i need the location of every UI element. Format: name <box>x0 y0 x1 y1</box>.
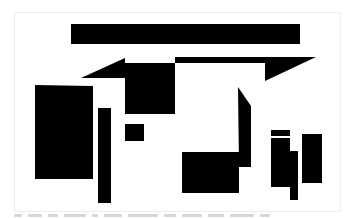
caption-word-placeholder <box>28 214 42 217</box>
caption-word-placeholder <box>164 214 176 217</box>
slanted-vertical-shape <box>238 87 251 167</box>
left-wedge-triangle <box>81 58 125 78</box>
right-small-cap-bar <box>271 130 290 136</box>
left-tall-rectangle <box>35 85 93 179</box>
geometric-artwork <box>0 0 351 218</box>
left-thin-vertical-bar <box>98 108 111 203</box>
caption-word-placeholder <box>128 214 158 217</box>
right-narrow-bar <box>290 151 298 200</box>
top-long-bar <box>71 24 300 44</box>
caption-word-placeholder <box>92 214 98 217</box>
central-square <box>125 63 175 114</box>
caption-word-placeholder <box>64 214 86 217</box>
caption-word-placeholder <box>208 214 224 217</box>
caption-word-placeholder <box>14 214 22 217</box>
caption-word-placeholder <box>260 214 270 217</box>
small-square <box>125 124 144 141</box>
caption-word-placeholder <box>182 214 202 217</box>
right-tall-rectangle <box>271 138 290 187</box>
caption-word-placeholder <box>48 214 58 217</box>
bottom-center-rectangle <box>182 152 239 193</box>
far-right-rectangle <box>302 134 322 183</box>
artwork-caption <box>14 213 341 218</box>
caption-word-placeholder <box>230 214 254 217</box>
top-right-wedge <box>175 57 316 81</box>
caption-word-placeholder <box>104 214 122 217</box>
